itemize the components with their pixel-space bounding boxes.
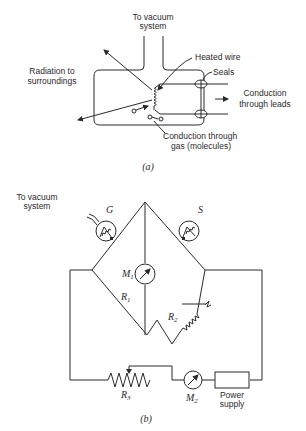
sealed-tube-s [179,221,199,241]
label-radiation-2: surroundings [27,76,76,86]
figure-a: To vacuum system Heated wire Seals [27,12,290,173]
label-to-vacuum-b2: system [24,201,51,211]
figure-b: To vacuum system M1 R1 R2 G [16,192,262,425]
heated-wire-coil [154,88,156,110]
label-r2: R2 [167,311,178,324]
resistor-r3 [108,373,150,387]
label-leads-1: Conduction [243,88,286,98]
label-m2: M2 [185,392,198,405]
r3-wiper [129,366,184,380]
outer-wire-left [70,270,108,380]
label-s: S [198,204,203,215]
label-r3: R3 [120,389,131,402]
gauge-tube-g [87,214,116,241]
resistor-r2 [180,270,205,332]
label-radiation-1: Radiation to [29,66,75,76]
power-supply [215,372,249,388]
pirani-gauge-diagram: To vacuum system Heated wire Seals [0,0,306,431]
gas-molecule [159,117,163,121]
label-g: G [106,204,113,215]
meter-m1 [135,264,155,284]
r2-variable-arrow [205,301,211,307]
label-m1: M1 [121,268,134,281]
label-seals: Seals [213,67,234,77]
gas-molecule [132,109,136,113]
label-gas-1: Conduction through [163,131,237,141]
gas-molecule [148,115,152,119]
label-leads-2: through leads [239,99,291,109]
label-r1: R1 [120,291,131,304]
label-gas-2: gas (molecules) [171,141,231,151]
meter-m2 [184,371,202,389]
label-power-2: supply [220,399,245,409]
label-heated-wire: Heated wire [195,52,241,62]
label-to-vacuum-a2: system [140,21,167,31]
caption-a: (a) [142,161,154,173]
radiation-arrow-down [78,100,152,120]
outer-wire-right [205,270,262,380]
caption-b: (b) [140,413,152,425]
